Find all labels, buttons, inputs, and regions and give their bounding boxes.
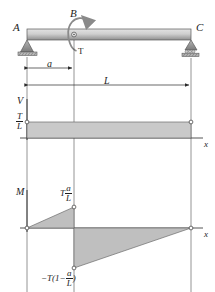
shear-point-c — [189, 120, 193, 124]
shear-x-axis-label: x — [204, 140, 208, 149]
moment-point-c — [189, 226, 193, 230]
moment-axis-label: M — [16, 187, 24, 197]
moment-peak-denominator: L — [65, 193, 72, 203]
shear-value-numerator: T — [16, 112, 23, 121]
support-a-triangle — [21, 40, 34, 52]
shear-value-denominator: L — [16, 121, 23, 131]
label-point-a: A — [13, 22, 20, 33]
label-torque-t: T — [78, 47, 84, 56]
moment-positive-triangle — [27, 207, 74, 228]
label-point-b: B — [70, 8, 77, 19]
figure-canvas: A B C T a L V T L x M T a L −T(1− a L ) … — [0, 0, 215, 292]
shear-constant-region — [27, 122, 191, 138]
moment-peak-label: T a L — [60, 184, 72, 203]
shear-point-a — [25, 120, 29, 124]
support-a-pin — [18, 40, 37, 55]
moment-point-a — [25, 226, 29, 230]
label-point-c: C — [196, 22, 203, 33]
moment-peak-point — [72, 205, 76, 209]
label-dimension-a: a — [47, 59, 52, 69]
diagram-svg — [0, 0, 215, 292]
moment-min-prefix: −T(1− — [41, 274, 66, 283]
shear-value-label: T L — [16, 108, 23, 131]
support-c-rollers — [185, 50, 195, 53]
moment-negative-triangle — [74, 228, 191, 268]
shear-diagram-graphic — [20, 99, 203, 140]
moment-min-label: −T(1− a L ) — [41, 269, 76, 288]
support-c-roller — [182, 40, 199, 56]
label-dimension-l: L — [104, 76, 110, 86]
moment-min-suffix: ) — [73, 274, 76, 283]
moment-peak-numerator: a — [65, 184, 72, 193]
shear-axis-label: V — [17, 96, 23, 106]
moment-min-numerator: a — [66, 269, 73, 278]
moment-min-denominator: L — [66, 278, 73, 288]
beam-pin-b-center — [73, 34, 75, 36]
support-c-triangle — [185, 40, 197, 50]
moment-diagram-graphic — [20, 190, 203, 270]
beam-body — [27, 29, 191, 40]
moment-x-axis-label: x — [204, 230, 208, 239]
beam-assembly — [27, 29, 191, 40]
